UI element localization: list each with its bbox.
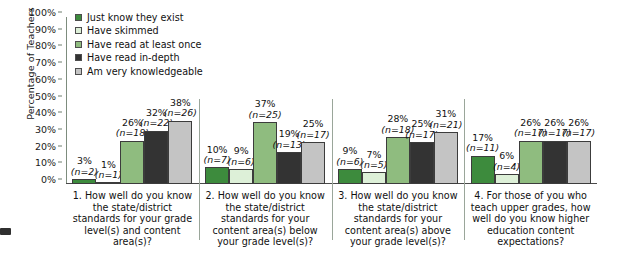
legend-item-label: Am very knowledgeable [87, 66, 203, 77]
bar-chart: Percentage of Teachers 100%90%80%70%60%5… [0, 0, 619, 253]
bar-value-label: 9%(n=6) [228, 146, 255, 167]
bar-percent-value: 37% [255, 98, 276, 109]
bar-count-value: (n=6) [228, 156, 255, 167]
bar-slot: 19%(n=13) [277, 17, 301, 184]
legend-swatch-icon [75, 27, 82, 34]
bar[interactable] [277, 152, 301, 184]
x-axis-category-label: 2. How well do you know the state/distri… [199, 188, 332, 252]
bar-slot: 31%(n=21) [434, 17, 458, 184]
bar[interactable] [495, 174, 519, 184]
legend-item: Am very knowledgeable [75, 65, 203, 77]
y-axis-tick-mark [58, 62, 62, 63]
bar-percent-value: 3% [77, 155, 92, 166]
x-axis-category-label: 1. How well do you know the state/distri… [66, 188, 199, 252]
bar-slot: 10%(n=7) [205, 17, 229, 184]
bar-slot: 25%(n=17) [410, 17, 434, 184]
y-axis-tick-label: 30% [35, 123, 56, 134]
bar-percent-value: 10% [207, 144, 228, 155]
y-axis-tick-label: 80% [35, 40, 56, 51]
y-axis-tick-label: 100% [29, 7, 56, 18]
bar[interactable] [567, 141, 591, 184]
bar-percent-value: 1% [101, 159, 116, 170]
legend-swatch-icon [75, 54, 82, 61]
page-edge-artifact [0, 228, 11, 235]
bar[interactable] [144, 131, 168, 184]
bar-count-value: (n=4) [493, 161, 520, 172]
legend-item-label: Have skimmed [87, 25, 159, 36]
bar[interactable] [543, 141, 567, 184]
y-axis-tick-mark [58, 12, 62, 13]
legend-swatch-icon [75, 14, 82, 21]
bar-value-label: 6%(n=4) [493, 151, 520, 172]
y-axis-tick-mark [58, 45, 62, 46]
bar[interactable] [168, 121, 192, 184]
y-axis-tick-mark [58, 78, 62, 79]
bar-slot: 6%(n=4) [495, 17, 519, 184]
bar-slot: 7%(n=5) [362, 17, 386, 184]
x-axis-category-label: 3. How well do you know the state/distri… [332, 188, 465, 252]
y-axis-tick-mark [58, 28, 62, 29]
bar[interactable] [434, 132, 458, 184]
bar-percent-value: 31% [435, 108, 456, 119]
legend-item: Have read at least once [75, 38, 203, 50]
legend-item: Have skimmed [75, 25, 203, 37]
bar[interactable] [120, 141, 144, 184]
bar-slot: 17%(n=11) [471, 17, 495, 184]
legend-swatch-icon [75, 41, 82, 48]
legend-item: Have read in-depth [75, 52, 203, 64]
bar[interactable] [410, 142, 434, 184]
legend-item-label: Just know they exist [87, 12, 183, 23]
y-axis-tick-label: 50% [35, 90, 56, 101]
legend-item: Just know they exist [75, 11, 203, 23]
y-axis-tick-label: 10% [35, 157, 56, 168]
bar[interactable] [205, 167, 229, 184]
bar-count-value: (n=26) [164, 107, 197, 118]
bar-group: 17%(n=11)6%(n=4)26%(n=17)26%(n=17)26%(n=… [464, 17, 597, 184]
bar[interactable] [72, 179, 96, 184]
bar[interactable] [471, 156, 495, 184]
y-axis-tick-mark [58, 112, 62, 113]
legend: Just know they existHave skimmedHave rea… [75, 11, 203, 78]
y-axis-tick-label: 40% [35, 107, 56, 118]
legend-swatch-icon [75, 68, 82, 75]
bar[interactable] [362, 172, 386, 184]
bar-percent-value: 6% [499, 150, 514, 161]
bar[interactable] [519, 141, 543, 184]
bar[interactable] [386, 137, 410, 184]
bar[interactable] [96, 182, 120, 184]
bar-value-label: 1%(n=1) [95, 160, 122, 181]
y-axis-tick-label: 20% [35, 140, 56, 151]
bar[interactable] [229, 169, 253, 184]
bar-percent-value: 9% [342, 145, 357, 156]
bar-value-label: 31%(n=21) [429, 109, 462, 130]
bar[interactable] [301, 142, 325, 184]
bar-value-label: 38%(n=26) [164, 98, 197, 119]
bar[interactable] [338, 169, 362, 184]
bar-value-label: 7%(n=5) [360, 150, 387, 171]
bar-slot: 26%(n=17) [519, 17, 543, 184]
bar-percent-value: 26% [568, 117, 589, 128]
y-axis-tick-label: 90% [35, 23, 56, 34]
y-axis-tick-label: 70% [35, 57, 56, 68]
y-axis-tick-label: 0% [41, 174, 56, 185]
x-axis-category-labels: 1. How well do you know the state/distri… [66, 188, 597, 252]
bar-slot: 26%(n=17) [567, 17, 591, 184]
bar-percent-value: 17% [472, 132, 493, 143]
legend-item-label: Have read at least once [87, 39, 201, 50]
bar-percent-value: 7% [366, 149, 381, 160]
bar-count-value: (n=1) [95, 169, 122, 180]
bar-slot: 37%(n=25) [253, 17, 277, 184]
x-axis-category-label: 4. For those of you who teach upper grad… [464, 188, 597, 252]
y-axis-tick-mark [58, 162, 62, 163]
bar-slot: 26%(n=17) [543, 17, 567, 184]
y-axis-tick-mark [58, 95, 62, 96]
bar-count-value: (n=21) [429, 119, 462, 130]
bar-percent-value: 38% [170, 97, 191, 108]
y-axis-tick-labels: 100%90%80%70%60%50%40%30%20%10%0% [20, 12, 62, 184]
bar-group: 9%(n=6)7%(n=5)28%(n=18)25%(n=17)31%(n=21… [332, 17, 465, 184]
y-axis-tick-mark [58, 145, 62, 146]
bar-value-label: 26%(n=17) [562, 118, 595, 139]
bar-slot: 9%(n=6) [338, 17, 362, 184]
bar-slot: 28%(n=18) [386, 17, 410, 184]
bar-percent-value: 25% [303, 118, 324, 129]
